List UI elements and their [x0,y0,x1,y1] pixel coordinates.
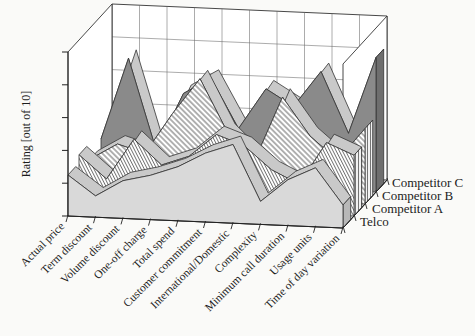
chart-canvas: Actual priceTerm discountVolume discount… [0,0,475,336]
y-axis-title: Rating [out of 10] [19,91,33,177]
series-label-competitor-c: Competitor C [392,175,463,190]
ribbon-competitor-a-end-cap [354,147,362,216]
series-label-telco: Telco [360,214,389,229]
series-label-competitor-b: Competitor B [382,188,453,203]
series-label-competitor-a: Competitor A [372,201,444,216]
depth-axis-tick [387,178,389,185]
3d-area-chart-figure: Actual priceTerm discountVolume discount… [0,0,475,336]
plot-area: Actual priceTerm discountVolume discount… [18,4,389,313]
ribbon-competitor-b-end-cap [365,120,373,204]
ribbon-competitor-c-end-cap [376,49,384,192]
